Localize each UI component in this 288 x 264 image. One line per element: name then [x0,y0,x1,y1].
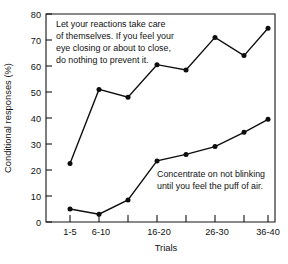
chart-figure: 0 10 20 30 40 50 60 70 80 1-5 6-10 16-20 [0,0,288,264]
lower-instruction-line-2: until you feel the puff of air. [157,181,263,191]
data-point [126,197,131,202]
x-tick-label-26-30: 26-30 [205,227,229,237]
x-tick-label-16-20: 16-20 [147,227,171,237]
upper-instruction-line-2: of themselves. If you feel your [56,31,174,41]
upper-instruction-line-4: do nothing to prevent it. [56,55,149,65]
y-tick-label-20: 20 [31,166,41,176]
x-tick-label-36-40: 36-40 [256,227,280,237]
data-point [126,95,131,100]
y-tick-label-10: 10 [31,192,41,202]
upper-instruction-line-3: eye closing or about to close, [56,43,171,53]
upper-instruction-line-1: Let your reactions take care [56,19,166,29]
y-tick-label-40: 40 [31,114,41,124]
data-point [155,62,160,67]
x-tick-label-1-5: 1-5 [63,227,76,237]
y-tick-label-0: 0 [36,218,41,228]
y-tick-label-60: 60 [31,62,41,72]
x-axis-title: Trials [155,242,178,253]
data-point [213,35,218,40]
data-point [155,158,160,163]
x-tick-label-6-10: 6-10 [92,227,110,237]
data-point [266,117,271,122]
y-tick-label-50: 50 [31,88,41,98]
data-point [213,144,218,149]
data-point [266,26,271,31]
data-point [242,130,247,135]
data-point [68,161,73,166]
data-point [242,53,247,58]
y-tick-label-80: 80 [31,10,41,20]
data-point [68,207,73,212]
y-axis-tick-labels: 0 10 20 30 40 50 60 70 80 [31,10,41,228]
y-tick-label-30: 30 [31,140,41,150]
data-point [97,87,102,92]
y-axis-title: Conditional responses (%) [2,63,13,173]
lower-instruction-line-1: Concentrate on not blinking [157,169,265,179]
y-tick-label-70: 70 [31,36,41,46]
data-point [97,212,102,217]
data-point [184,67,189,72]
line-chart-svg: 0 10 20 30 40 50 60 70 80 1-5 6-10 16-20 [0,0,288,264]
data-point [184,152,189,157]
